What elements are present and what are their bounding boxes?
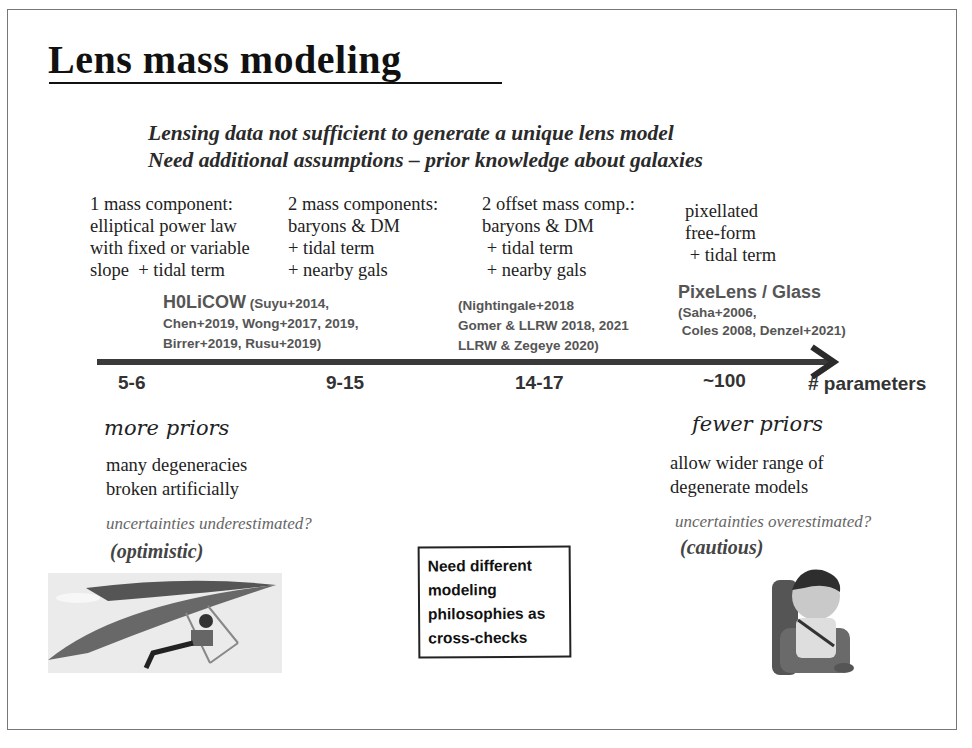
left-attitude: (optimistic) — [110, 540, 203, 563]
title-underline — [49, 82, 502, 84]
slide-title: Lens mass modeling — [48, 36, 402, 83]
column-1-ref-name: H0LiCOW — [163, 292, 246, 312]
callout-line: modeling — [428, 578, 561, 603]
param-count-1: 5-6 — [118, 372, 145, 394]
column-2-description: 2 mass components: baryons & DM + tidal … — [288, 193, 438, 281]
left-uncertainty: uncertainties underestimated? — [106, 514, 312, 534]
column-4-description: pixellated free-form + tidal term — [685, 200, 776, 266]
param-count-2: 9-15 — [326, 372, 364, 394]
right-uncertainty: uncertainties overestimated? — [675, 512, 871, 532]
column-4-ref-list: (Saha+2006, Coles 2008, Denzel+2021) — [678, 305, 846, 338]
subtitle-line-2: Need additional assumptions – prior know… — [148, 148, 703, 173]
axis-label: # parameters — [808, 373, 926, 395]
column-4-ref-name: PixeLens / Glass — [678, 283, 846, 301]
left-body: many degeneracies broken artificially — [106, 453, 247, 501]
pilot-body — [191, 630, 213, 646]
callout-line: cross-checks — [428, 626, 561, 651]
arrow-shaft — [97, 359, 829, 365]
callout-box: Need different modeling philosophies as … — [418, 545, 572, 658]
cloud-icon — [56, 593, 100, 603]
column-4-references: PixeLens / Glass(Saha+2006, Coles 2008, … — [678, 283, 846, 340]
right-attitude: (cautious) — [680, 536, 763, 559]
subtitle-line-1: Lensing data not sufficient to generate … — [148, 121, 674, 146]
param-count-4: ~100 — [703, 370, 746, 392]
right-body: allow wider range of degenerate models — [670, 451, 824, 499]
callout-line: Need different — [428, 554, 561, 579]
param-count-3: 14-17 — [515, 372, 564, 394]
column-1-description: 1 mass component: elliptical power law w… — [90, 193, 250, 281]
pilot-head — [199, 614, 213, 628]
column-3-description: 2 offset mass comp.: baryons & DM + tida… — [482, 193, 635, 281]
more-priors-heading: more priors — [104, 416, 229, 440]
child-car-seat-illustration — [764, 558, 864, 680]
fewer-priors-heading: fewer priors — [692, 412, 823, 436]
callout-line: philosophies as — [428, 602, 561, 627]
child-shoe — [834, 663, 854, 673]
hang-glider-illustration — [48, 573, 282, 673]
